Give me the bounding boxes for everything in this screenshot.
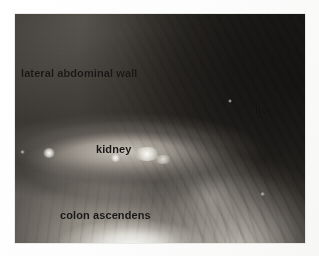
annotation-colon-ascendens: colon ascendens [60, 210, 151, 221]
lens-vignette [15, 14, 305, 243]
figure-root: lateral abdominal wall kidney liver colo… [0, 0, 319, 256]
endoscopic-photo: lateral abdominal wall kidney liver colo… [15, 14, 305, 243]
annotation-kidney: kidney [96, 144, 131, 155]
annotation-lateral-abdominal-wall: lateral abdominal wall [21, 68, 138, 79]
annotation-liver: liver [255, 105, 278, 116]
photo-canvas: lateral abdominal wall kidney liver colo… [15, 14, 305, 243]
